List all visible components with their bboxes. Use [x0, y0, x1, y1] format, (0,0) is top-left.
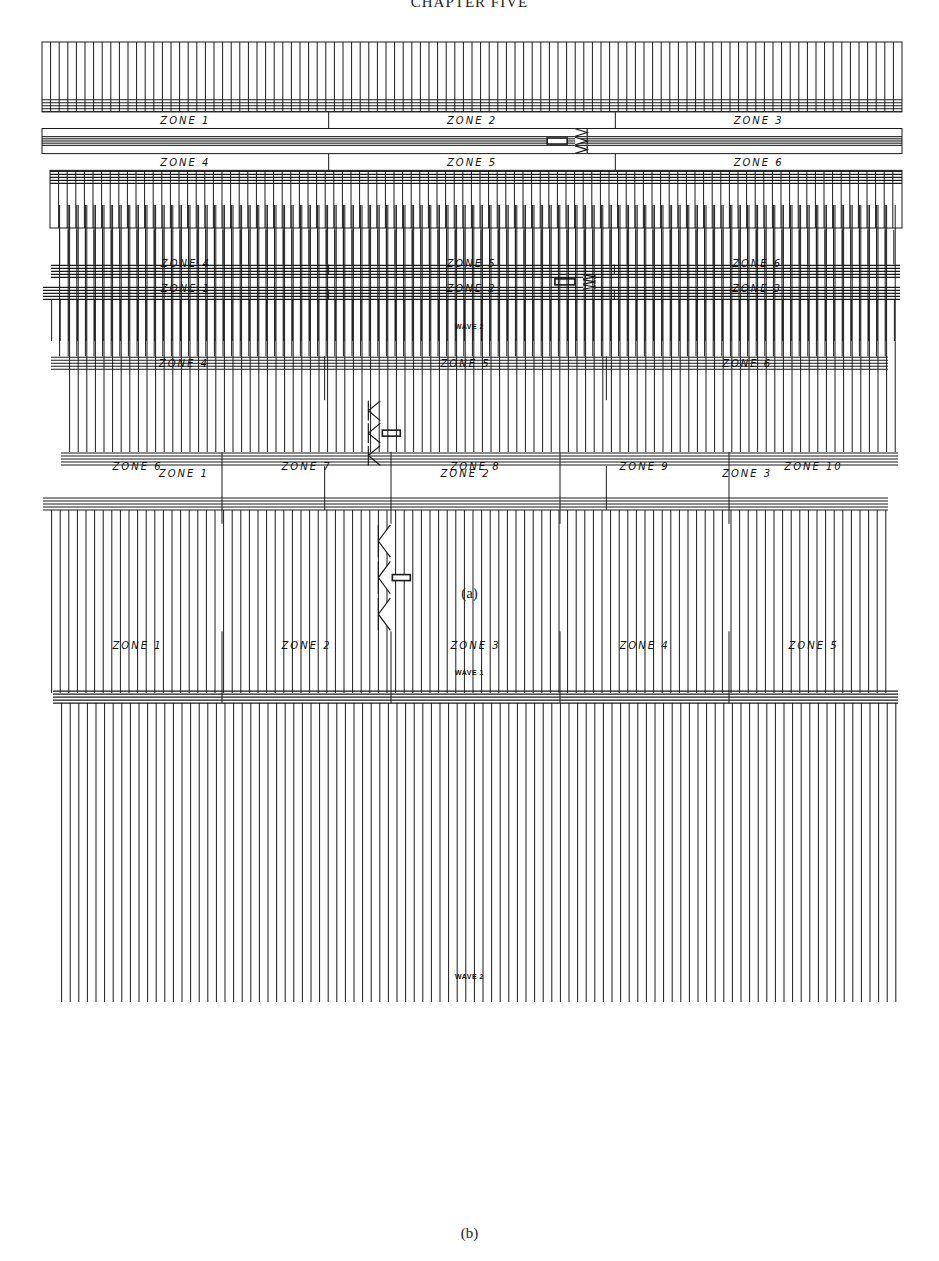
zone-label-top: ZONE 5	[787, 640, 838, 651]
zone-label-top: ZONE 3	[449, 640, 500, 651]
zone-label-top: ZONE 4	[618, 640, 669, 651]
zone-label-bottom: ZONE 7	[280, 461, 331, 472]
zone-label-top: ZONE 1	[111, 640, 162, 651]
zone-label-bottom: ZONE 8	[449, 461, 500, 472]
vehicle-icon	[378, 525, 410, 630]
caption-b: (b)	[0, 1225, 939, 1242]
zone-label-bottom: ZONE 6	[111, 461, 162, 472]
zone-label-bottom: ZONE 9	[618, 461, 669, 472]
zone-label-bottom: ZONE 10	[783, 461, 842, 472]
zone-label-top: ZONE 2	[280, 640, 331, 651]
diagram-b-wave2: ZONE 1ZONE 2ZONE 3ZONE 4ZONE 5ZONE 6ZONE…	[0, 0, 939, 1230]
